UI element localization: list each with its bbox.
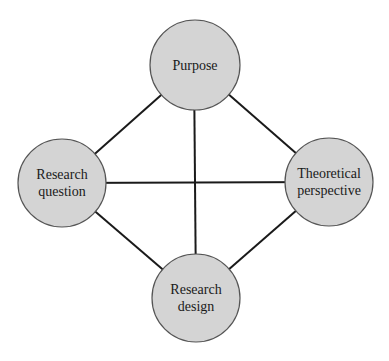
node-label-line1: Research — [36, 167, 87, 182]
node-purpose: Purpose — [150, 20, 240, 110]
node-theoretical-perspective: Theoretical perspective — [285, 138, 373, 226]
node-circle — [285, 138, 373, 226]
node-label-line2: question — [38, 184, 85, 199]
node-research-design: Research design — [152, 254, 240, 342]
node-circle — [152, 254, 240, 342]
node-research-question: Research question — [18, 139, 106, 227]
node-label-line2: design — [178, 299, 215, 314]
node-label: Purpose — [172, 58, 217, 73]
node-label-line1: Research — [170, 282, 221, 297]
node-label-line2: perspective — [297, 183, 361, 198]
diagram-canvas: Purpose Research question Theoretical pe… — [0, 0, 389, 361]
node-label-line1: Theoretical — [297, 166, 361, 181]
node-circle — [18, 139, 106, 227]
